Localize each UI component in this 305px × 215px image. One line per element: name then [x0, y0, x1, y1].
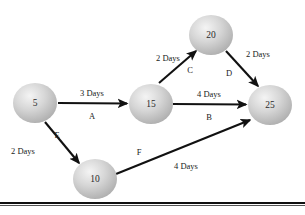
edge-d-duration-label: 2 Days — [246, 49, 270, 59]
edge-f-name-label: F — [137, 147, 142, 157]
edge-a-duration-label: 3 Days — [80, 88, 104, 98]
edge-e-name-label: E — [54, 130, 59, 140]
edge-f-duration-label: 4 Days — [174, 161, 198, 171]
node-20-label: 20 — [206, 30, 216, 40]
node-20[interactable]: 20 — [189, 15, 233, 55]
node-10-label: 10 — [90, 174, 100, 184]
edge-c-duration-label: 2 Days — [156, 53, 180, 63]
footer-divider — [0, 202, 305, 206]
edge-a-name-label: A — [89, 111, 96, 121]
edge-b-duration-label: 4 Days — [197, 89, 221, 99]
node-15-label: 15 — [146, 99, 156, 109]
edge-line-b — [173, 104, 246, 105]
edge-e-duration-label: 2 Days — [11, 146, 35, 156]
footer-rule-thin — [0, 205, 305, 206]
network-diagram-canvas: 5 15 20 25 10 3 Days A 4 Days B — [0, 0, 305, 215]
edge-b-name-label: B — [206, 112, 212, 122]
edge-d-name-label: D — [226, 68, 232, 78]
edge-c-name-label: C — [187, 65, 193, 75]
edge-line-e — [45, 122, 79, 163]
node-25-label: 25 — [265, 100, 275, 110]
edge-line-a — [58, 103, 127, 104]
node-15[interactable]: 15 — [129, 84, 173, 124]
nodes-layer: 5 15 20 25 10 — [13, 15, 292, 199]
node-10[interactable]: 10 — [73, 159, 117, 199]
network-diagram: 5 15 20 25 10 3 Days A 4 Days B — [0, 0, 305, 215]
node-5[interactable]: 5 — [13, 83, 57, 123]
node-5-label: 5 — [33, 98, 38, 108]
footer-rule-thick — [0, 202, 305, 204]
node-25[interactable]: 25 — [248, 85, 292, 125]
